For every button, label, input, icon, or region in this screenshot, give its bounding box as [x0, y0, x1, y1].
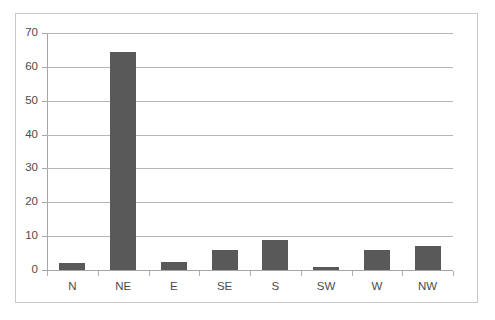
x-axis-category-label: NE — [98, 279, 149, 299]
x-axis-tick-mark — [250, 271, 251, 276]
bar-slot — [352, 33, 403, 270]
y-axis-tick-mark — [42, 33, 47, 34]
y-axis-tick-label: 70 — [16, 27, 38, 38]
x-axis-tick-mark — [352, 271, 353, 276]
plot-area — [47, 33, 453, 270]
y-axis-tick-label: 20 — [16, 196, 38, 207]
bar-nw[interactable] — [415, 246, 441, 270]
bar-slot — [149, 33, 200, 270]
y-axis-tick-label: 60 — [16, 61, 38, 72]
y-axis-tick-mark — [42, 135, 47, 136]
x-axis-tick-mark — [402, 271, 403, 276]
bar-sw[interactable] — [313, 267, 339, 270]
x-axis-category-label: SW — [301, 279, 352, 299]
bar-slot — [250, 33, 301, 270]
y-axis-tick-mark — [42, 270, 47, 271]
x-axis-tick-mark — [47, 271, 48, 276]
x-axis-tick-mark — [199, 271, 200, 276]
bar-w[interactable] — [364, 250, 390, 270]
y-axis-tick-mark — [42, 202, 47, 203]
y-axis-tick-label: 30 — [16, 162, 38, 173]
y-axis-tick-label: 50 — [16, 95, 38, 106]
bar-s[interactable] — [262, 240, 288, 270]
y-axis-tick-mark — [42, 168, 47, 169]
x-axis-tick-mark — [149, 271, 150, 276]
bar-slot — [98, 33, 149, 270]
bar-slot — [47, 33, 98, 270]
y-axis-tick-mark — [42, 101, 47, 102]
bar-e[interactable] — [161, 262, 187, 270]
bar-n[interactable] — [59, 263, 85, 270]
bar-ne[interactable] — [110, 52, 136, 270]
bar-se[interactable] — [212, 250, 238, 270]
y-axis-tick-mark — [42, 67, 47, 68]
x-axis-category-label: E — [149, 279, 200, 299]
x-axis-category-label: SE — [199, 279, 250, 299]
x-axis-category-label: W — [352, 279, 403, 299]
x-axis-category-label: NW — [402, 279, 453, 299]
bar-series — [47, 33, 453, 270]
x-axis-category-label: S — [250, 279, 301, 299]
y-axis-tick-label: 0 — [16, 264, 38, 275]
bar-slot — [199, 33, 250, 270]
y-axis-tick-labels: 010203040506070 — [16, 14, 38, 304]
y-axis-tick-label: 40 — [16, 129, 38, 140]
x-axis-tick-mark — [98, 271, 99, 276]
y-axis-tick-mark — [42, 236, 47, 237]
x-axis-tick-mark — [301, 271, 302, 276]
chart-frame: 010203040506070 NNEESESSWWNW — [15, 13, 478, 303]
y-axis-tick-label: 10 — [16, 230, 38, 241]
bar-slot — [301, 33, 352, 270]
bar-slot — [402, 33, 453, 270]
x-axis-category-labels: NNEESESSWWNW — [47, 279, 453, 299]
x-axis-tick-mark — [453, 271, 454, 276]
x-axis-category-label: N — [47, 279, 98, 299]
